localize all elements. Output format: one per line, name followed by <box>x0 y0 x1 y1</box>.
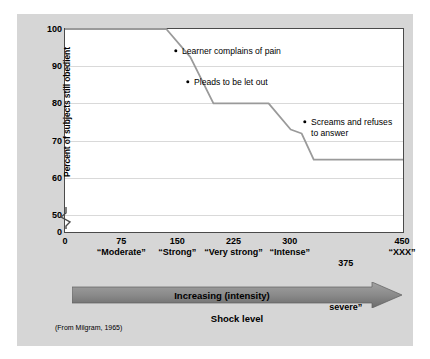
ytick-label-70: 70 <box>52 136 62 146</box>
xtick-300-value: 300 <box>269 236 310 247</box>
xtick-75: 75 “Moderate” <box>97 236 146 258</box>
xtick-0-value: 0 <box>62 236 67 247</box>
figure-panel: 100 90 80 70 60 50 0 Percent of subjects… <box>17 14 413 346</box>
xtick-150-value: 150 <box>158 236 196 247</box>
xtick-225: 225 “Very strong” <box>204 236 263 258</box>
xtick-75-value: 75 <box>97 236 146 247</box>
annotation-screams-line1: Screams and refuses <box>311 117 392 127</box>
xtick-375-value: 375 <box>328 258 364 269</box>
xtick-450-label: “XXX” <box>388 247 415 258</box>
ytick-label-60: 60 <box>52 173 62 183</box>
x-axis-title: Shock level <box>72 313 402 324</box>
ytick-label-80: 80 <box>52 98 62 108</box>
xtick-300: 300 “Intense” <box>269 236 310 258</box>
xtick-450: 450 “XXX” <box>388 236 415 258</box>
arrow-label: Increasing (intensity) <box>72 282 372 308</box>
annotation-learner-complains: Learner complains of pain <box>182 46 281 57</box>
xtick-225-value: 225 <box>204 236 263 247</box>
annotation-screams-line2: to answer <box>311 128 348 138</box>
plot-area: 100 90 80 70 60 50 0 Percent of subjects… <box>64 28 404 233</box>
xtick-300-label: “Intense” <box>269 247 310 258</box>
xtick-150: 150 “Strong” <box>158 236 196 258</box>
xtick-0: 0 <box>62 236 67 247</box>
ytick-label-90: 90 <box>52 61 62 71</box>
xtick-75-label: “Moderate” <box>97 247 146 258</box>
annotation-pleads: Pleads to be let out <box>194 77 268 88</box>
ytick-label-100: 100 <box>47 24 62 34</box>
intensity-arrow: Increasing (intensity) <box>72 282 402 308</box>
annotation-screams: Screams and refuses to answer <box>311 117 392 139</box>
source-citation: (From Milgram, 1965) <box>55 324 122 331</box>
xtick-225-label: “Very strong” <box>204 247 263 258</box>
xtick-450-value: 450 <box>388 236 415 247</box>
xtick-150-label: “Strong” <box>158 247 196 258</box>
